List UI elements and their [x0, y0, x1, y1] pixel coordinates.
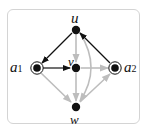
label-v: v — [68, 55, 74, 68]
edge-a2-u — [80, 33, 110, 63]
edge-u-w-curved — [80, 33, 91, 101]
edge-a1-w — [41, 73, 71, 102]
label-a2-main: a — [124, 59, 132, 75]
label-a1-sub: 1 — [18, 63, 23, 74]
label-a2: a2 — [124, 60, 137, 75]
label-a1: a1 — [10, 60, 23, 75]
node-u — [72, 26, 80, 34]
edge-w-a2 — [80, 74, 110, 102]
label-w: w — [70, 113, 79, 126]
node-a2 — [109, 62, 121, 74]
node-w — [72, 103, 80, 111]
label-a1-main: a — [10, 59, 18, 75]
label-u: u — [71, 11, 79, 26]
node-a1 — [31, 62, 43, 74]
label-a2-sub: 2 — [132, 63, 137, 74]
